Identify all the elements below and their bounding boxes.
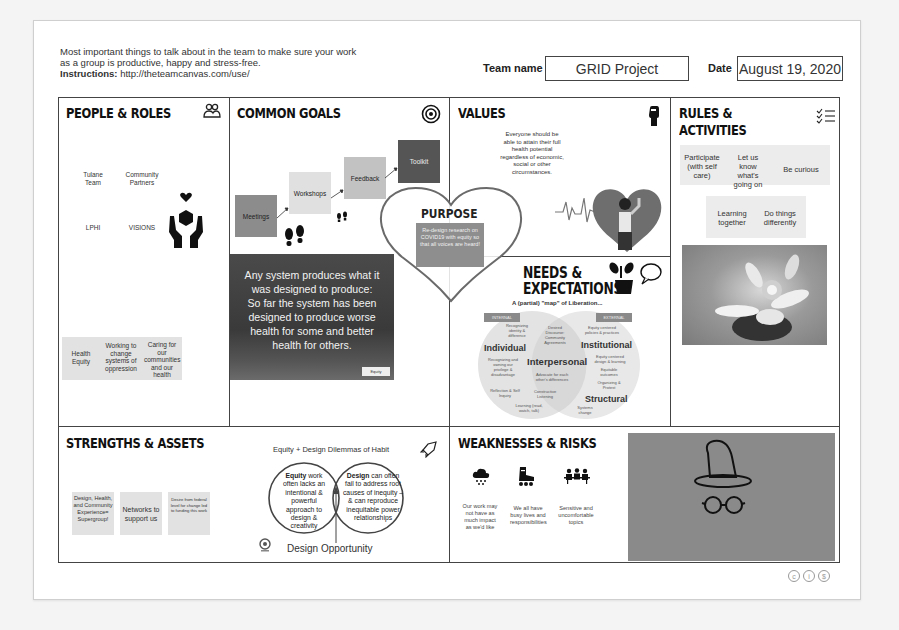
weakness-item: We all have busy lives and responsibilit… xyxy=(510,505,546,526)
intro-line-1: Most important things to talk about in t… xyxy=(60,46,356,57)
glasses-icon xyxy=(702,497,745,513)
fist-icon xyxy=(648,106,660,126)
purpose-title: PURPOSE xyxy=(421,206,478,221)
member-label: Community Partners xyxy=(122,171,162,186)
map-note: Reflection & Self Inquiry xyxy=(490,388,520,398)
team-name-field[interactable]: GRID Project xyxy=(545,56,689,81)
rule-item: Learning together xyxy=(712,209,752,227)
by-icon: i xyxy=(803,570,815,582)
nc-icon: $ xyxy=(818,570,830,582)
meeting-people-icon xyxy=(564,468,590,484)
equity-bold: Equity xyxy=(285,472,306,479)
rule-item: Do things differently xyxy=(758,209,802,227)
people-icon xyxy=(203,103,221,119)
sticky-note: Caring for our communities and our healt… xyxy=(144,341,180,379)
quote-line: Any system produces what it xyxy=(230,268,394,282)
wizard-illustration xyxy=(628,433,835,561)
team-name-label: Team name xyxy=(483,62,543,74)
plant-speech-icon xyxy=(609,262,663,294)
wizard-hat-icon xyxy=(707,441,736,477)
divider xyxy=(58,426,840,427)
footprints-icon xyxy=(283,225,307,250)
map-note: Equitable outcomes xyxy=(595,367,623,377)
equity-venn-text: Equity work often lacks an intentional &… xyxy=(278,472,330,531)
map-note: Desired Discourse: Community Agreements xyxy=(540,325,570,345)
map-note: Constructive Listening xyxy=(530,389,560,399)
instructions-link[interactable]: http://theteamcanvas.com/use/ xyxy=(120,68,249,79)
map-level-individual: Individual xyxy=(484,343,526,353)
instructions-label: Instructions: xyxy=(60,68,118,79)
date-field[interactable]: August 19, 2020 xyxy=(737,56,843,81)
rule-item: Participate (with self care) xyxy=(684,153,720,180)
member-label: VISIONS xyxy=(124,224,160,232)
values-title: VALUES xyxy=(458,105,505,121)
quote-line: was designed to produce: xyxy=(230,282,394,296)
intro-line-2: as a group is productive, happy and stre… xyxy=(60,57,356,68)
needs-title-line1: NEEDS & xyxy=(523,265,582,281)
rules-title-line2: ACTIVITIES xyxy=(679,122,747,138)
map-note: Recognizing identity & difference xyxy=(503,323,531,338)
map-note: Recognizing and owning our privilege & d… xyxy=(486,357,520,377)
quote-logo: Equity xyxy=(362,367,390,376)
map-level-structural: Structural xyxy=(585,394,628,404)
dilemma-title: Equity + Design Dilemmas of Habit xyxy=(273,445,389,454)
map-level-interpersonal: Interpersonal xyxy=(527,356,587,367)
map-note: Equity centered policies & practices xyxy=(582,325,622,335)
weaknesses-title: WEAKNESSES & RISKS xyxy=(458,435,597,451)
lotus-image xyxy=(682,245,827,345)
date-label: Date xyxy=(708,62,732,74)
purpose-text: Re-design research on COVID19 with equit… xyxy=(416,223,484,267)
liberation-map-title: A (partial) "map" of Liberation... xyxy=(512,300,602,306)
rule-item: Be curious xyxy=(778,165,824,174)
divider xyxy=(670,97,671,426)
member-label: Tulane Team xyxy=(78,171,108,186)
target-icon xyxy=(421,104,441,124)
equity-text: work often lacks an intentional & powerf… xyxy=(283,472,325,529)
map-note: Systems change xyxy=(574,405,596,415)
strength-note: Networks to support us xyxy=(121,505,161,523)
sticky-note: Health Equity xyxy=(66,350,96,365)
weakness-item: Sensitive and uncomfortable topics xyxy=(556,505,596,526)
map-note: Organizing & Protest xyxy=(594,380,624,390)
caring-hands-icon xyxy=(168,192,204,250)
member-label: LPHI xyxy=(80,224,106,232)
design-text: can often fail to address root causes of… xyxy=(343,472,403,521)
strength-note: Desire from federal level for change led… xyxy=(169,497,209,514)
checklist-icon xyxy=(816,108,836,124)
map-note: Equity centered design & learning xyxy=(590,354,630,364)
quote-line: designed to produce worse xyxy=(230,310,394,324)
sticky-note: Working to change systems of oppression xyxy=(104,342,138,372)
quote-line: So far the system has been xyxy=(230,296,394,310)
design-logo-icon xyxy=(259,538,271,552)
design-bold: Design xyxy=(347,472,370,479)
rollerskate-icon xyxy=(518,467,536,486)
strengths-title: STRENGTHS & ASSETS xyxy=(66,435,204,451)
common-goals-title: COMMON GOALS xyxy=(237,105,341,121)
intro-text: Most important things to talk about in t… xyxy=(60,46,356,79)
rule-item: Let us know what's going on xyxy=(728,153,768,189)
rocket-icon xyxy=(420,440,438,458)
map-tag-external: EXTERNAL xyxy=(596,313,632,322)
values-text: Everyone should be able to attain their … xyxy=(500,131,564,176)
quote-image: Any system produces what it was designed… xyxy=(230,254,394,380)
rules-title-line1: RULES & xyxy=(679,105,732,121)
map-note: Learning (read, watch, talk) xyxy=(512,403,546,413)
lotus-flower xyxy=(682,245,827,345)
quote-line: health for some and better xyxy=(230,324,394,338)
rain-cloud-icon xyxy=(472,468,490,485)
heart-woman-illustration xyxy=(555,184,663,252)
wizard-image xyxy=(628,433,835,561)
map-level-institutional: Institutional xyxy=(581,340,632,350)
footprints-small-icon xyxy=(336,211,348,223)
divider xyxy=(449,97,450,563)
cc-icon: c xyxy=(788,570,800,582)
map-note: Advocate for each other's differences xyxy=(535,372,569,382)
design-venn-text: Design can often fail to address root ca… xyxy=(342,472,404,522)
weakness-item: Our work may not have as much impact as … xyxy=(461,503,499,531)
strength-note: Design, Health, and Community Experience… xyxy=(73,495,113,523)
license-icons: c i $ xyxy=(788,570,830,582)
quote-line: health for others. xyxy=(230,338,394,352)
map-tag-internal: INTERNAL xyxy=(484,313,520,322)
design-opportunity-label: Design Opportunity xyxy=(287,543,373,554)
people-roles-title: PEOPLE & ROLES xyxy=(66,105,171,121)
